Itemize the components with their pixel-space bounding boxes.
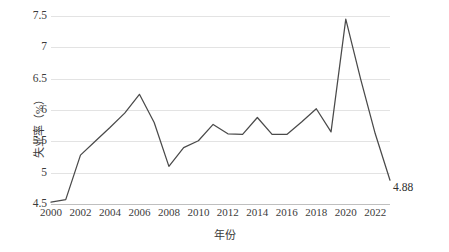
- x-axis-tick-label: 2018: [305, 207, 327, 218]
- figure-caption: [0, 247, 449, 252]
- x-axis-title: 年份: [0, 226, 449, 242]
- x-axis-tick-label: 2022: [364, 207, 386, 218]
- x-axis-tick-label: 2006: [128, 207, 150, 218]
- y-axis-tick-label: 6.5: [33, 73, 47, 85]
- chart-container: 失业率（%） 4.555.566.577.5200020022004200620…: [0, 0, 449, 252]
- x-axis-tick-label: 2004: [99, 207, 121, 218]
- plot-area: 4.555.566.577.52000200220042006200820102…: [51, 16, 390, 204]
- x-axis-tick-label: 2012: [217, 207, 239, 218]
- series-line: [51, 16, 390, 204]
- x-axis-tick-label: 2014: [246, 207, 268, 218]
- y-axis-tick-label: 7.5: [33, 10, 47, 22]
- y-axis-tick-label: 7: [41, 42, 47, 54]
- x-axis-tick-label: 2000: [40, 207, 62, 218]
- y-axis-tick-label: 5.5: [33, 136, 47, 148]
- x-axis-tick-label: 2002: [69, 207, 91, 218]
- x-axis-tick-label: 2008: [158, 207, 180, 218]
- data-point-label: 4.88: [393, 182, 413, 194]
- x-axis-tick-label: 2020: [335, 207, 357, 218]
- x-axis-tick-label: 2010: [187, 207, 209, 218]
- y-axis-tick-label: 5: [41, 167, 47, 179]
- y-axis-tick-label: 6: [41, 104, 47, 116]
- x-axis-tick-label: 2016: [276, 207, 298, 218]
